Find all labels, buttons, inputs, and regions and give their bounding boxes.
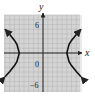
tick-label-6: 6 <box>35 21 39 30</box>
tick-label-0: 0 <box>35 60 39 69</box>
hyperbola-graph: y x 6 0 −6 <box>0 0 95 103</box>
y-axis-label: y <box>38 1 44 12</box>
tick-label-neg6: −6 <box>30 81 39 90</box>
x-axis-label: x <box>84 47 90 58</box>
